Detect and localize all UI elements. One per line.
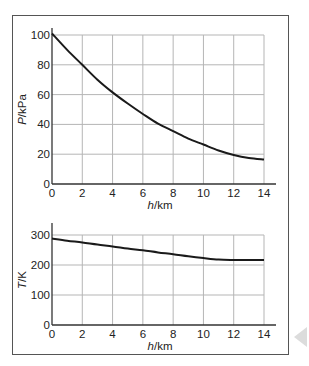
y-tick-label: 100	[31, 289, 50, 301]
charts-canvas: 02468101214020406080100h/kmP/kPa 0246810…	[0, 0, 309, 366]
x-tick-label: 14	[258, 187, 271, 199]
x-tick-label: 6	[140, 328, 146, 340]
y-tick-label: 300	[31, 229, 50, 241]
x-axis-label: h/km	[148, 199, 173, 211]
x-tick-label: 14	[258, 328, 271, 340]
pressure-curve	[52, 34, 264, 160]
x-tick-label: 2	[79, 187, 85, 199]
y-axis-label: T/K	[16, 271, 28, 289]
temperature-chart: 024681012140100200300h/kmT/K	[16, 223, 276, 352]
temperature-curve	[52, 239, 264, 260]
x-tick-label: 2	[79, 328, 85, 340]
x-tick-label: 6	[140, 187, 146, 199]
y-tick-label: 100	[31, 29, 50, 41]
pressure-chart: 02468101214020406080100h/kmP/kPa	[16, 28, 276, 211]
y-tick-label: 0	[44, 178, 50, 190]
y-tick-label: 0	[44, 319, 50, 331]
y-tick-label: 80	[37, 59, 50, 71]
x-tick-label: 12	[227, 187, 240, 199]
x-tick-label: 4	[109, 328, 116, 340]
x-tick-label: 8	[170, 187, 176, 199]
y-tick-label: 200	[31, 259, 50, 271]
x-tick-label: 12	[227, 328, 240, 340]
y-tick-label: 60	[37, 89, 50, 101]
y-tick-label: 40	[37, 118, 50, 130]
x-tick-label: 4	[109, 187, 116, 199]
previous-arrow-icon[interactable]	[294, 327, 307, 347]
y-axis-label: P/kPa	[16, 94, 28, 125]
x-tick-label: 10	[197, 328, 210, 340]
x-tick-label: 10	[197, 187, 210, 199]
x-axis-label: h/km	[148, 340, 173, 352]
x-tick-label: 8	[170, 328, 176, 340]
y-tick-label: 20	[37, 148, 50, 160]
